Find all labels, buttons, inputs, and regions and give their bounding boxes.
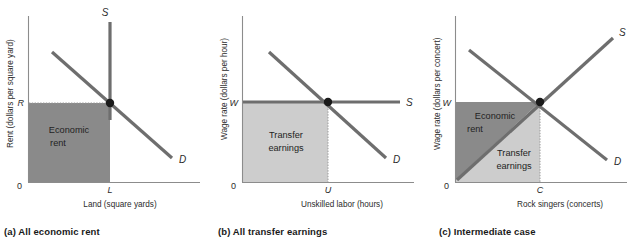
y-tick-label-W: W bbox=[443, 98, 453, 108]
x-tick-label-L: L bbox=[107, 185, 112, 195]
panel-c-intermediate-case: S D W C 0 Economic rent Transfer earning… bbox=[427, 0, 641, 247]
equilibrium-point bbox=[324, 98, 332, 106]
origin-label: 0 bbox=[444, 181, 449, 191]
region-economic-rent bbox=[29, 103, 110, 182]
region-label-economic-rent-line2: rent bbox=[50, 138, 66, 148]
region-label-transfer-earnings-line1: Transfer bbox=[269, 130, 303, 140]
demand-curve-label: D bbox=[393, 154, 400, 165]
origin-label: 0 bbox=[231, 181, 236, 191]
supply-curve-label: S bbox=[102, 7, 109, 18]
region-label-economic-rent-line2: rent bbox=[467, 124, 483, 134]
supply-curve-label: S bbox=[406, 97, 413, 108]
economic-rent-figure: S D R L 0 Economic rent Rent (dollars pe… bbox=[0, 0, 641, 247]
panel-b-caption: (b) All transfer earnings bbox=[218, 226, 327, 237]
region-label-economic-rent-line1: Economic bbox=[475, 111, 516, 121]
region-label-transfer-earnings-line2: earnings bbox=[268, 143, 304, 153]
y-axis-title: Wage rate (dollars per hour) bbox=[220, 38, 229, 140]
x-axis-title: Unskilled labor (hours) bbox=[301, 200, 383, 209]
demand-curve-label: D bbox=[614, 156, 621, 167]
equilibrium-point bbox=[536, 98, 544, 106]
supply-curve-label: S bbox=[619, 27, 626, 38]
panel-c-caption: (c) Intermediate case bbox=[439, 226, 536, 237]
panel-a-all-economic-rent: S D R L 0 Economic rent Rent (dollars pe… bbox=[0, 0, 214, 247]
region-label-transfer-earnings-line2: earnings bbox=[496, 161, 532, 171]
panel-a-caption: (a) All economic rent bbox=[4, 226, 100, 237]
origin-label: 0 bbox=[17, 181, 22, 191]
region-label-economic-rent-line1: Economic bbox=[49, 125, 90, 135]
region-label-transfer-earnings-line1: Transfer bbox=[497, 148, 531, 158]
equilibrium-point bbox=[106, 99, 114, 107]
y-tick-label-R: R bbox=[18, 98, 25, 108]
demand-curve-label: D bbox=[179, 154, 186, 165]
x-tick-label-U: U bbox=[325, 185, 332, 195]
panel-b-chart: S D W U 0 Transfer earnings Wage rate (d… bbox=[214, 0, 428, 200]
y-axis-title: Rent (dollars per square yard) bbox=[6, 39, 15, 148]
y-axis-title: Wage rate (dollars per concert) bbox=[433, 37, 442, 150]
x-tick-label-C: C bbox=[537, 185, 544, 195]
panel-a-chart: S D R L 0 Economic rent Rent (dollars pe… bbox=[0, 0, 214, 200]
y-tick-label-W: W bbox=[230, 98, 240, 108]
x-axis-title: Rock singers (concerts) bbox=[517, 200, 603, 209]
x-axis-title: Land (square yards) bbox=[83, 200, 157, 209]
panel-c-chart: S D W C 0 Economic rent Transfer earning… bbox=[427, 0, 641, 200]
panel-b-all-transfer-earnings: S D W U 0 Transfer earnings Wage rate (d… bbox=[214, 0, 428, 247]
